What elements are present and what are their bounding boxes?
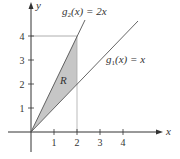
y-tick-label-4: 4 bbox=[20, 31, 25, 42]
y-axis-arrow-icon bbox=[29, 2, 34, 9]
y-axis-label: y bbox=[35, 0, 41, 11]
y-tick-label-3: 3 bbox=[20, 55, 25, 66]
function-plot: 1 2 3 4 1 2 3 4 x y g2(x) = 2x g1(x) = x… bbox=[0, 0, 180, 159]
x-axis-label: x bbox=[165, 125, 171, 137]
x-axis-arrow-icon bbox=[156, 130, 163, 135]
x-tick-label-2: 2 bbox=[75, 137, 80, 148]
y-tick-label-1: 1 bbox=[20, 103, 25, 114]
x-tick-label-1: 1 bbox=[52, 137, 57, 148]
x-tick-label-3: 3 bbox=[98, 137, 103, 148]
g2-label: g2(x) = 2x bbox=[62, 5, 107, 19]
g1-label: g1(x) = x bbox=[106, 53, 145, 67]
line-g1 bbox=[31, 21, 138, 132]
y-tick-label-2: 2 bbox=[20, 79, 25, 90]
region-label-r: R bbox=[59, 74, 67, 86]
x-tick-label-4: 4 bbox=[121, 137, 126, 148]
